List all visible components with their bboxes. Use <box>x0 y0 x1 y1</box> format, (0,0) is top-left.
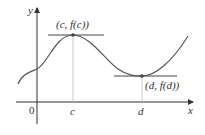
diagram-canvas: y x 0 c d (c, f(c)) (d, f(d)) <box>0 0 205 135</box>
max-point-label: (c, f(c)) <box>56 18 89 31</box>
tick-label-c: c <box>70 105 75 117</box>
x-axis-label: x <box>187 104 193 116</box>
max-point <box>71 33 75 37</box>
tick-label-d: d <box>138 105 144 117</box>
function-curve <box>18 35 188 84</box>
min-point <box>140 74 144 78</box>
origin-label: 0 <box>29 104 35 116</box>
min-point-label: (d, f(d)) <box>145 79 180 92</box>
y-axis-label: y <box>27 4 33 16</box>
